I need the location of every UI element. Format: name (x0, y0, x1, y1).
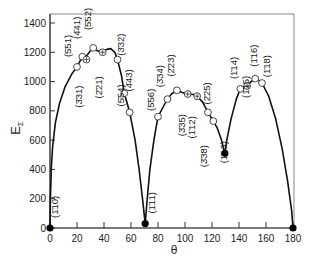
miller-index-label: (5̄56) (145, 89, 156, 111)
data-point-open (174, 87, 181, 94)
miller-index-label: (3̄35) (176, 114, 187, 136)
miller-index-label: (3̄38) (198, 145, 209, 167)
miller-index-label: (2̄23) (165, 54, 176, 76)
data-point-open (155, 113, 162, 120)
x-tick-label: 60 (125, 233, 137, 244)
x-axis-title: θ (171, 243, 178, 257)
data-point-filled (46, 224, 53, 231)
data-point-open (114, 56, 121, 63)
x-tick-label: 20 (71, 233, 83, 244)
miller-index-label: (2̄25) (201, 82, 212, 104)
miller-index-label: (1̄14) (228, 57, 239, 79)
miller-index-label: (1̄10) (49, 196, 60, 218)
miller-index-label: (1̄13) (218, 141, 229, 163)
x-tick-label: 160 (258, 233, 275, 244)
miller-index-label: (4̄41) (71, 17, 82, 39)
energy-vs-angle-chart: 020406080100120140160180 020040060080010… (0, 0, 314, 268)
x-tick-label: 120 (204, 233, 221, 244)
miller-index-label: (1̄18) (261, 55, 272, 77)
miller-index-label: (3̄32) (115, 34, 126, 56)
y-tick-label: 600 (29, 135, 46, 146)
miller-index-label: (5̄54) (115, 84, 126, 106)
data-point-filled (142, 220, 149, 227)
y-tick-label: 200 (29, 193, 46, 204)
x-tick-label: 100 (177, 233, 194, 244)
miller-index-label: (5̄52) (82, 8, 93, 30)
miller-index-label: (3̄34) (154, 65, 165, 87)
x-tick-label: 180 (285, 233, 302, 244)
y-tick-label: 0 (40, 223, 46, 234)
data-point-filled (289, 224, 296, 231)
y-tick-label: 1400 (24, 18, 47, 29)
data-point-open (205, 109, 212, 116)
data-point-open (210, 118, 217, 125)
x-tick-label: 140 (231, 233, 248, 244)
data-point-open (126, 109, 133, 116)
x-tick-label: 80 (152, 233, 164, 244)
y-axis-title: EΣ (8, 121, 25, 135)
x-ticks: 020406080100120140160180 (47, 222, 302, 244)
data-point-open (252, 75, 259, 82)
data-point-open (259, 80, 266, 87)
data-point-open (74, 64, 81, 71)
miller-index-label: (1̄15) (240, 76, 251, 98)
miller-index-label: (1̄12) (186, 116, 197, 138)
miller-index-label: (2̄21) (93, 76, 104, 98)
miller-index-label: (3̄31) (73, 86, 84, 108)
y-tick-label: 1200 (24, 47, 47, 58)
x-tick-label: 0 (47, 233, 53, 244)
data-point-open (164, 96, 171, 103)
data-point-open (90, 44, 97, 51)
y-tick-label: 1000 (24, 76, 47, 87)
miller-index-label: (1̄11) (146, 192, 157, 213)
x-tick-label: 40 (98, 233, 110, 244)
curve-segment (225, 79, 293, 228)
y-tick-label: 800 (29, 105, 46, 116)
y-tick-label: 400 (29, 164, 46, 175)
miller-index-label: (1̄16) (248, 45, 259, 67)
